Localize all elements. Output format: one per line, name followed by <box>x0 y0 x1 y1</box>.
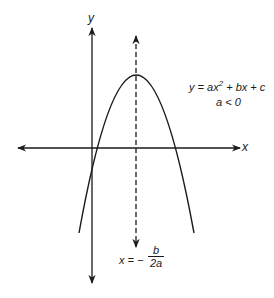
symmetry-fraction: b 2a <box>148 244 164 269</box>
fraction-numerator: b <box>151 244 161 256</box>
y-axis-label: y <box>88 11 94 25</box>
x-axis-label: x <box>242 140 248 154</box>
axis-of-symmetry-label: x = − <box>119 254 143 266</box>
fraction-denominator: 2a <box>148 256 164 269</box>
equation-suffix: + bx + c <box>223 81 265 93</box>
equation-prefix: y = ax <box>189 81 219 93</box>
parabola-curve <box>79 75 194 233</box>
equation-line-2: a < 0 <box>216 96 241 108</box>
equation-line-1: y = ax2 + bx + c <box>189 79 265 93</box>
symmetry-lhs: x = − <box>119 254 143 266</box>
